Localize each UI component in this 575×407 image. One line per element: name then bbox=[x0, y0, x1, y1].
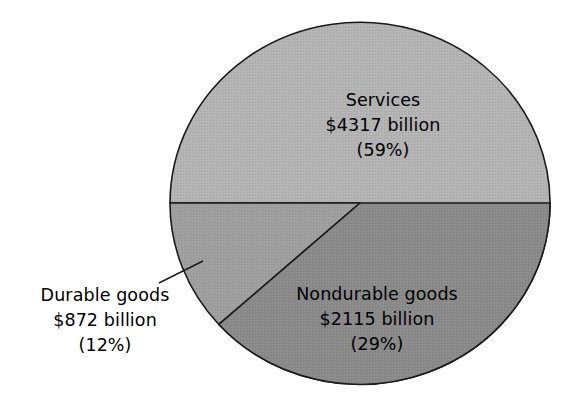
durable-value: $872 billion bbox=[12, 308, 198, 333]
slice-label-nondurable-goods: Nondurable goods $2115 billion (29%) bbox=[272, 282, 482, 357]
durable-name: Durable goods bbox=[12, 283, 198, 308]
pie-chart-figure: Services $4317 billion (59%) Nondurable … bbox=[0, 0, 575, 407]
slice-label-durable-goods: Durable goods $872 billion (12%) bbox=[12, 283, 198, 358]
services-name: Services bbox=[288, 88, 478, 113]
nondurable-percent: (29%) bbox=[272, 332, 482, 357]
services-percent: (59%) bbox=[288, 138, 478, 163]
slice-label-services: Services $4317 billion (59%) bbox=[288, 88, 478, 163]
durable-percent: (12%) bbox=[12, 333, 198, 358]
services-value: $4317 billion bbox=[288, 113, 478, 138]
nondurable-value: $2115 billion bbox=[272, 307, 482, 332]
nondurable-name: Nondurable goods bbox=[272, 282, 482, 307]
